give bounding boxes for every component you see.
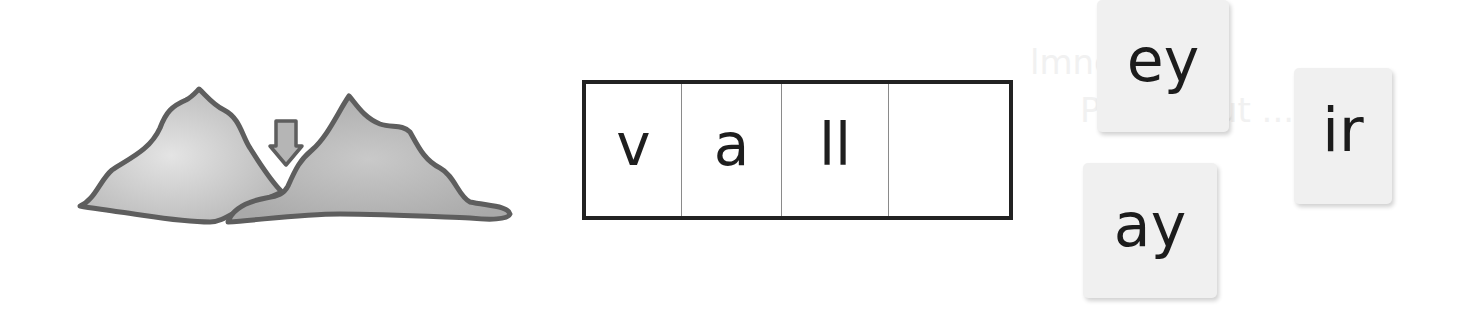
letter-slot-text: a	[714, 111, 750, 179]
valley-picture	[70, 80, 520, 240]
grapheme-card-ay[interactable]: ay	[1083, 163, 1217, 298]
grapheme-card-label: ey	[1127, 25, 1199, 95]
down-arrow-icon	[270, 121, 302, 165]
grapheme-card-label: ir	[1322, 95, 1363, 165]
letter-slot[interactable]: a	[682, 84, 782, 216]
letter-slot[interactable]: ll	[782, 84, 889, 216]
letter-slot-text: v	[616, 111, 650, 179]
grapheme-card-ir[interactable]: ir	[1294, 68, 1392, 204]
grapheme-card-label: ay	[1114, 190, 1186, 260]
empty-letter-slot[interactable]	[889, 84, 1009, 216]
grapheme-card-ey[interactable]: ey	[1097, 0, 1229, 132]
word-builder-grid: v a ll	[582, 80, 1013, 220]
mountains-valley-icon	[70, 80, 520, 240]
letter-slot[interactable]: v	[586, 84, 682, 216]
letter-slot-text: ll	[819, 111, 851, 179]
